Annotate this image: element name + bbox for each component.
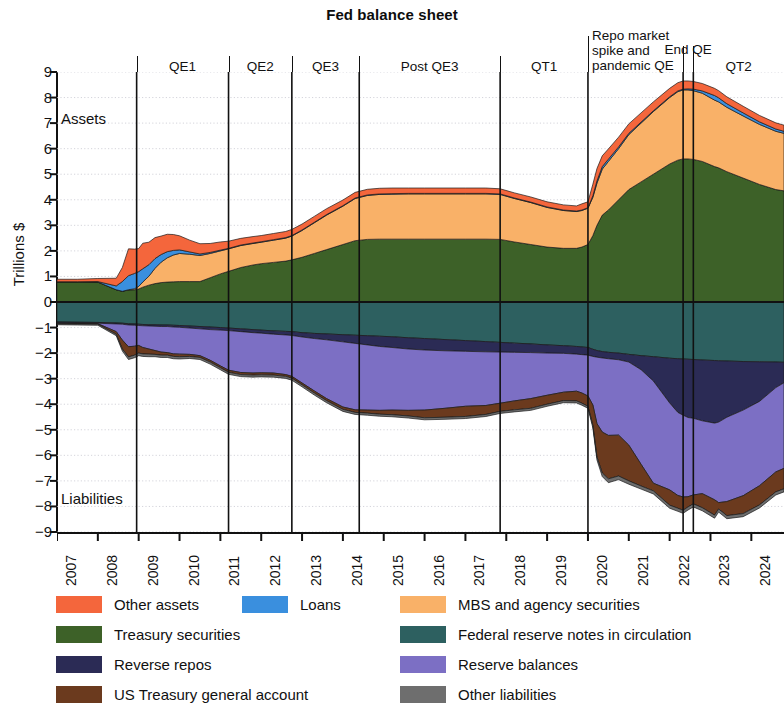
period-divider-stem	[683, 46, 684, 72]
x-tick-label: 2016	[431, 555, 447, 586]
x-tick-label: 2014	[349, 555, 365, 586]
period-divider-stem	[292, 56, 293, 72]
plot-area: Assets Liabilities	[57, 72, 784, 532]
legend-label: Reverse repos	[114, 656, 212, 673]
legend-item[interactable]: Reserve balances	[400, 656, 578, 673]
legend: Other assetsLoansMBS and agency securiti…	[56, 596, 784, 714]
x-tick-label: 2013	[308, 555, 324, 586]
legend-item[interactable]: Reverse repos	[56, 656, 212, 673]
x-tick-label: 2012	[267, 555, 283, 586]
legend-label: US Treasury general account	[114, 686, 308, 703]
legend-label: Loans	[300, 596, 341, 613]
y-axis-title: Trillions $	[10, 185, 27, 325]
legend-item[interactable]: Treasury securities	[56, 626, 240, 643]
legend-swatch	[400, 656, 446, 673]
legend-swatch	[56, 686, 102, 703]
legend-item[interactable]: Other assets	[56, 596, 199, 613]
legend-swatch	[56, 626, 102, 643]
x-tick-label: 2010	[186, 555, 202, 586]
legend-item[interactable]: Federal reserve notes in circulation	[400, 626, 691, 643]
legend-item[interactable]: Other liabilities	[400, 686, 556, 703]
legend-label: Federal reserve notes in circulation	[458, 626, 691, 643]
period-divider-stem	[693, 46, 694, 72]
legend-swatch	[400, 596, 446, 613]
x-tick-label: 2009	[145, 555, 161, 586]
period-divider-stem	[229, 56, 230, 72]
x-tick-label: 2022	[676, 555, 692, 586]
liabilities-area-stack	[57, 302, 784, 519]
x-tick-label: 2011	[226, 556, 242, 586]
legend-swatch	[56, 596, 102, 613]
legend-label: MBS and agency securities	[458, 596, 640, 613]
x-tick-label: 2018	[512, 555, 528, 586]
x-axis-ticks	[57, 532, 784, 546]
liabilities-label: Liabilities	[61, 490, 123, 507]
x-axis: 2007200820092010201120122013201420152016…	[57, 532, 784, 594]
legend-swatch	[400, 626, 446, 643]
legend-label: Treasury securities	[114, 626, 240, 643]
legend-item[interactable]: MBS and agency securities	[400, 596, 640, 613]
period-divider-stem	[500, 56, 501, 72]
period-divider-stem	[359, 56, 360, 72]
period-divider-stem	[137, 56, 138, 72]
x-tick-label: 2020	[594, 555, 610, 586]
x-tick-label: 2017	[471, 555, 487, 586]
x-tick-label: 2021	[635, 555, 651, 586]
period-divider-stem	[588, 36, 589, 72]
legend-swatch	[242, 596, 288, 613]
legend-swatch	[400, 686, 446, 703]
period-label: End QE	[658, 42, 718, 57]
x-tick-label: 2007	[63, 555, 79, 586]
page-title: Fed balance sheet	[0, 6, 784, 23]
x-tick-label: 2015	[390, 555, 406, 586]
legend-item[interactable]: US Treasury general account	[56, 686, 308, 703]
legend-label: Other liabilities	[458, 686, 556, 703]
x-tick-label: 2023	[716, 555, 732, 586]
chart-page: Fed balance sheet QE1QE2QE3Post QE3QT1Re…	[0, 0, 784, 717]
x-tick-label: 2008	[104, 555, 120, 586]
assets-label: Assets	[61, 110, 106, 127]
stacked-area-chart	[57, 72, 784, 532]
x-tick-label: 2024	[757, 555, 773, 586]
legend-item[interactable]: Loans	[242, 596, 341, 613]
legend-label: Other assets	[114, 596, 199, 613]
legend-label: Reserve balances	[458, 656, 578, 673]
assets-area-stack	[57, 81, 784, 302]
x-tick-label: 2019	[553, 555, 569, 586]
legend-swatch	[56, 656, 102, 673]
